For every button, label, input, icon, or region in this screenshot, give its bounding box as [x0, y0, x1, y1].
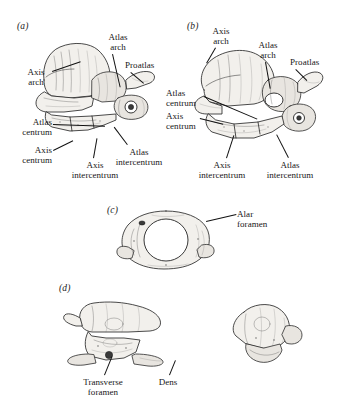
- label-b-axis-centrum: Axis centrum: [166, 111, 196, 131]
- label-b-atlas-centrum: Atlas centrum: [166, 88, 196, 108]
- label-a-atlas-intercentrum: Atlas intercentrum: [116, 147, 163, 167]
- label-b-atlas-arch: Atlas arch: [258, 40, 277, 60]
- label-a-proatlas: Proatlas: [125, 60, 154, 70]
- label-b-proatlas: Proatlas: [290, 57, 319, 67]
- panel-letter-b: (b): [187, 21, 199, 31]
- panel-letter-c: (c): [107, 205, 118, 215]
- figure-plate: (a): [0, 0, 338, 405]
- label-b-atlas-intercentrum: Atlas intercentrum: [267, 160, 314, 180]
- panel-d-right-artwork: [222, 302, 304, 368]
- panel-c-artwork: [118, 209, 214, 273]
- panel-letter-d: (d): [59, 283, 71, 293]
- label-a-atlas-centrum: Atlas centrum: [22, 117, 52, 137]
- panel-letter-a: (a): [17, 21, 29, 31]
- label-a-axis-intercentrum: Axis intercentrum: [72, 160, 119, 180]
- label-b-axis-arch: Axis arch: [212, 26, 229, 46]
- label-c-alar-foramen: Alar foramen: [237, 209, 267, 229]
- label-a-axis-arch: Axis arch: [27, 67, 44, 87]
- panel-d-left-artwork: [62, 298, 180, 376]
- label-b-axis-intercentrum: Axis intercentrum: [199, 160, 246, 180]
- label-a-axis-centrum: Axis centrum: [22, 145, 52, 165]
- label-a-atlas-arch: Atlas arch: [108, 32, 127, 52]
- label-d-transverse-foramen: Transverse foramen: [83, 377, 123, 397]
- label-d-dens: Dens: [159, 377, 178, 387]
